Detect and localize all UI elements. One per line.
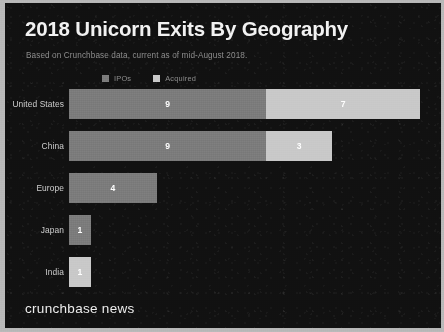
stacked-bar-chart: United States97China93Europe4Japan1India… bbox=[5, 89, 441, 285]
category-label: India bbox=[5, 267, 69, 277]
category-label: United States bbox=[5, 99, 69, 109]
chart-legend: IPOsAcquired bbox=[102, 72, 196, 84]
bar-value-label: 7 bbox=[341, 99, 346, 109]
bar-value-label: 9 bbox=[165, 99, 170, 109]
category-label: Japan bbox=[5, 225, 69, 235]
chart-row: India1 bbox=[5, 257, 441, 287]
bar-segment-ipos[interactable]: 9 bbox=[69, 89, 266, 119]
chart-row: United States97 bbox=[5, 89, 441, 119]
bar-segment-acquired[interactable]: 7 bbox=[266, 89, 420, 119]
chart-row: China93 bbox=[5, 131, 441, 161]
page-title: 2018 Unicorn Exits By Geography bbox=[25, 17, 348, 41]
bar-value-label: 1 bbox=[77, 225, 82, 235]
bar-value-label: 1 bbox=[77, 267, 82, 277]
category-label: China bbox=[5, 141, 69, 151]
bar-track: 97 bbox=[69, 89, 441, 119]
bar-segment-ipos[interactable]: 4 bbox=[69, 173, 157, 203]
bar-segment-acquired[interactable]: 1 bbox=[69, 257, 91, 287]
category-label: Europe bbox=[5, 183, 69, 193]
chart-screenshot: 2018 Unicorn Exits By Geography Based on… bbox=[0, 0, 444, 332]
brand-footer: crunchbase news bbox=[25, 301, 135, 316]
bar-track: 1 bbox=[69, 257, 441, 287]
legend-item-acquired: Acquired bbox=[153, 74, 196, 83]
chart-row: Japan1 bbox=[5, 215, 441, 245]
square-swatch-icon bbox=[102, 75, 109, 82]
legend-item-label: IPOs bbox=[114, 74, 131, 83]
chart-subtitle: Based on Crunchbase data, current as of … bbox=[26, 51, 247, 60]
bar-value-label: 3 bbox=[297, 141, 302, 151]
bar-value-label: 9 bbox=[165, 141, 170, 151]
bar-track: 1 bbox=[69, 215, 441, 245]
bar-segment-ipos[interactable]: 1 bbox=[69, 215, 91, 245]
bar-track: 4 bbox=[69, 173, 441, 203]
bar-segment-ipos[interactable]: 9 bbox=[69, 131, 266, 161]
chart-row: Europe4 bbox=[5, 173, 441, 203]
bar-segment-acquired[interactable]: 3 bbox=[266, 131, 332, 161]
chart-panel: 2018 Unicorn Exits By Geography Based on… bbox=[5, 3, 441, 328]
square-swatch-icon bbox=[153, 75, 160, 82]
bar-value-label: 4 bbox=[110, 183, 115, 193]
bar-track: 93 bbox=[69, 131, 441, 161]
legend-item-label: Acquired bbox=[165, 74, 196, 83]
legend-item-ipos: IPOs bbox=[102, 74, 131, 83]
